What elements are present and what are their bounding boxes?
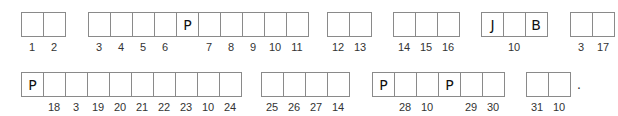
word-group: 25262714: [261, 72, 349, 114]
letter-cell: 9: [242, 12, 264, 54]
letter-cell: J: [481, 12, 503, 54]
letter-box[interactable]: [526, 72, 548, 97]
cell-number: 13: [354, 41, 366, 54]
letter-box[interactable]: [43, 12, 66, 37]
letter-cell: 13: [349, 12, 371, 54]
letter-box[interactable]: [88, 12, 110, 37]
letter-cell: 12: [327, 12, 349, 54]
letter-cell: 22: [153, 72, 175, 114]
letter-cell: P: [176, 12, 198, 54]
letter-box[interactable]: [264, 12, 286, 37]
cell-number: 28: [399, 101, 411, 114]
cell-number: 29: [465, 101, 477, 114]
letter-box[interactable]: [283, 72, 305, 97]
letter-box[interactable]: [327, 72, 350, 97]
letter-box[interactable]: [437, 12, 460, 37]
letter-box[interactable]: P: [438, 72, 460, 97]
letter-box[interactable]: [43, 72, 65, 97]
letter-box[interactable]: B: [525, 12, 548, 37]
letter-box[interactable]: [131, 72, 153, 97]
letter-box[interactable]: [110, 12, 132, 37]
letter-box[interactable]: [305, 72, 327, 97]
letter-box[interactable]: [154, 12, 176, 37]
cell-number: 14: [398, 41, 410, 54]
letter-cell: 3: [65, 72, 87, 114]
letter-cell: 5: [132, 12, 154, 54]
letter-cell: P: [372, 72, 394, 114]
letter-box[interactable]: [219, 72, 242, 97]
cell-number: 27: [310, 101, 322, 114]
letter-box[interactable]: [65, 72, 87, 97]
cell-number: 30: [487, 101, 499, 114]
letter-cell: 6: [154, 12, 176, 54]
letter-cell: 2: [43, 12, 65, 54]
cell-number: 9: [250, 41, 256, 54]
letter-cell: 14: [393, 12, 415, 54]
cell-number: 7: [206, 41, 212, 54]
letter-cell: 10: [264, 12, 286, 54]
letter-box[interactable]: [220, 12, 242, 37]
letter-cell: 10: [197, 72, 219, 114]
letter-cell: 4: [110, 12, 132, 54]
letter-cell: 1: [21, 12, 43, 54]
letter-box[interactable]: [175, 72, 197, 97]
letter-cell: 26: [283, 72, 305, 114]
letter-box[interactable]: P: [176, 12, 198, 37]
cell-number: 26: [288, 101, 300, 114]
letter-box[interactable]: [87, 72, 109, 97]
letter-box[interactable]: [153, 72, 175, 97]
letter-cell: 18: [43, 72, 65, 114]
cell-number: 18: [48, 101, 60, 114]
letter-cell: 29: [460, 72, 482, 114]
letter-box[interactable]: [570, 12, 592, 37]
letter-cell: 31: [526, 72, 548, 114]
cell-number: 20: [114, 101, 126, 114]
letter-box[interactable]: [482, 72, 505, 97]
cell-number: 11: [291, 41, 302, 54]
letter-cell: B: [525, 12, 547, 54]
letter-box[interactable]: [21, 12, 43, 37]
cell-number: 14: [332, 101, 344, 114]
word-group: P2810P2930: [372, 72, 504, 114]
cell-number: 6: [162, 41, 168, 54]
letter-cell: 3: [570, 12, 592, 54]
cell-number: 10: [202, 101, 214, 114]
letter-box[interactable]: [109, 72, 131, 97]
letter-box[interactable]: [394, 72, 416, 97]
letter-box[interactable]: [286, 12, 309, 37]
letter-box[interactable]: [132, 12, 154, 37]
cell-number: 24: [224, 101, 236, 114]
letter-box[interactable]: [349, 12, 372, 37]
letter-cell: 10: [503, 12, 525, 54]
cell-number: 4: [118, 41, 124, 54]
cell-number: 10: [508, 41, 520, 54]
cell-number: 19: [92, 101, 104, 114]
end-punctuation: .: [577, 76, 581, 92]
letter-cell: 20: [109, 72, 131, 114]
letter-box[interactable]: [460, 72, 482, 97]
letter-box[interactable]: [197, 72, 219, 97]
cell-number: 22: [158, 101, 170, 114]
letter-box[interactable]: P: [21, 72, 43, 97]
letter-box[interactable]: [415, 12, 437, 37]
letter-cell: P: [438, 72, 460, 114]
letter-box[interactable]: [548, 72, 571, 97]
letter-box[interactable]: P: [372, 72, 394, 97]
word-group: 317: [570, 12, 614, 54]
letter-box[interactable]: [592, 12, 615, 37]
puzzle-row-2: P1831920212223102425262714P2810P29303110…: [0, 72, 618, 116]
letter-box[interactable]: [198, 12, 220, 37]
cell-number: 17: [597, 41, 609, 54]
letter-cell: 30: [482, 72, 504, 114]
cell-number: 5: [140, 41, 146, 54]
letter-box[interactable]: J: [481, 12, 503, 37]
letter-box[interactable]: [503, 12, 525, 37]
letter-box[interactable]: [261, 72, 283, 97]
letter-box[interactable]: [393, 12, 415, 37]
letter-box[interactable]: [242, 12, 264, 37]
letter-cell: 28: [394, 72, 416, 114]
letter-box[interactable]: [327, 12, 349, 37]
letter-cell: 21: [131, 72, 153, 114]
cell-number: 3: [578, 41, 584, 54]
letter-box[interactable]: [416, 72, 438, 97]
